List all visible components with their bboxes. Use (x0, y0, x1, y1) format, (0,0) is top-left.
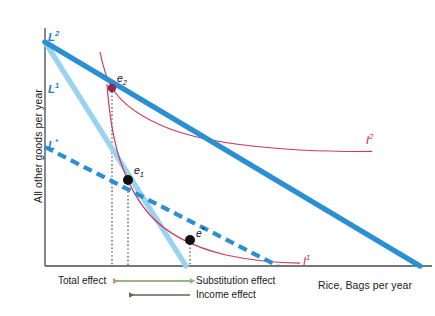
budget-label-sup-L2: 2 (55, 29, 59, 38)
point-label-e2: e2 (117, 72, 127, 87)
budget-label-base-Lstar: L (48, 139, 55, 151)
indifference-curve-diagram (0, 0, 435, 316)
point-label-sub-e2: 2 (123, 78, 127, 87)
effect-arrows-group (113, 281, 190, 295)
point-e1 (123, 175, 133, 185)
point-label-sup-estar: * (202, 225, 205, 234)
point-label-sub-e1: 1 (140, 170, 144, 179)
legend-total-effect-label: Total effect (58, 275, 106, 286)
figure-canvas: All other goods per year Rice, Bags per … (0, 0, 435, 316)
droplines-group (112, 88, 190, 266)
legend-income-effect-label: Income effect (196, 289, 256, 300)
budget-line-L2 (45, 42, 420, 266)
budget-line-label-L2: L2 (48, 29, 59, 43)
budget-line-Lstar (45, 147, 278, 266)
budget-label-sup-L1: 1 (55, 81, 59, 90)
budget-label-base-L2: L (48, 31, 55, 43)
point-estar (185, 235, 195, 245)
budget-line-label-Lstar: L* (48, 137, 58, 151)
budget-label-base-L1: L (48, 83, 55, 95)
y-axis-title: All other goods per year (32, 46, 44, 246)
legend-substitution-effect-label: Substitution effect (196, 275, 275, 286)
x-axis-title: Rice, Bags per year (318, 279, 412, 291)
curve-label-sup-I1: 1 (306, 253, 310, 262)
budget-label-sup-Lstar: * (55, 137, 58, 146)
budget-line-label-L1: L1 (48, 81, 59, 95)
curve-label-I1: I1 (303, 253, 310, 267)
curve-label-I2: I2 (366, 132, 373, 146)
point-e2 (108, 84, 116, 92)
point-label-estar: e* (196, 225, 205, 239)
point-label-e1: e1 (134, 164, 144, 179)
budget-line-L1 (45, 42, 186, 266)
curve-label-sup-I2: 2 (369, 132, 373, 141)
